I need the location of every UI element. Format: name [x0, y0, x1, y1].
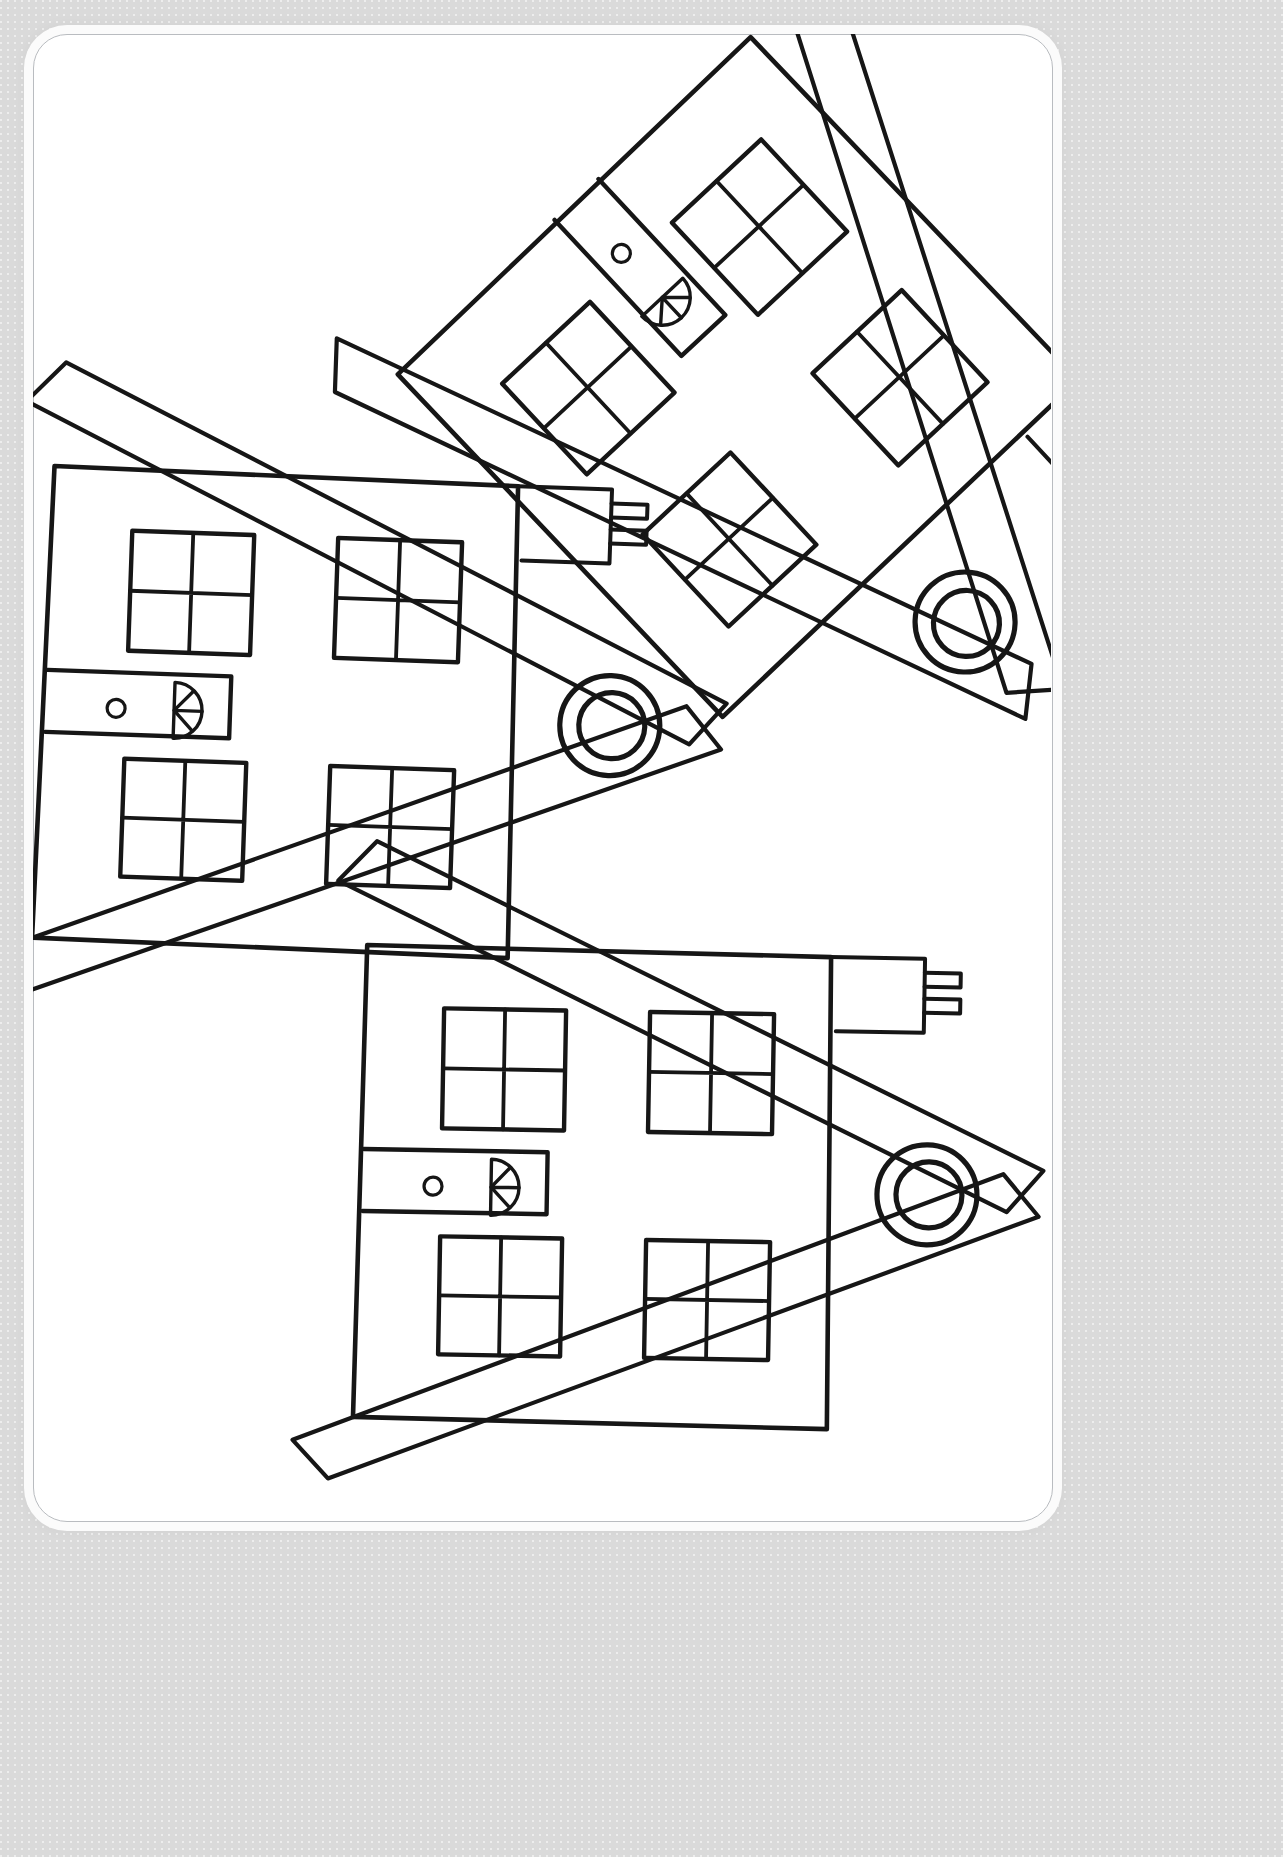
house-2-attic-vent	[558, 674, 661, 777]
house-1-door-fan-light	[642, 278, 702, 337]
house-1-roof	[309, 34, 1051, 914]
house-2-window-top-right	[128, 531, 254, 655]
house-1-door	[553, 179, 725, 357]
house-2-roof	[33, 360, 738, 1024]
house-2	[33, 360, 738, 1024]
house-1-window-top-left	[502, 302, 674, 475]
house-2-chimney	[516, 486, 649, 564]
house-3-window-top-right	[442, 1008, 566, 1130]
house-3-attic-vent	[876, 1144, 978, 1246]
house-2-door-fan-light	[173, 682, 203, 739]
house-1-chimney	[1023, 380, 1051, 527]
house-3-roof	[292, 840, 1049, 1491]
house-1	[309, 34, 1051, 914]
house-2-window-top-left	[120, 759, 246, 881]
house-3-door-fan-light	[491, 1159, 520, 1215]
house-3	[292, 840, 1049, 1491]
house-2-door	[45, 670, 231, 740]
house-1-window-bottom-left	[643, 452, 817, 626]
house-3-door	[363, 1149, 548, 1216]
house-3-window-top-left	[438, 1236, 562, 1356]
houses-line-drawing	[33, 34, 1051, 1520]
house-1-attic-vent	[894, 551, 1035, 692]
house-3-chimney	[830, 957, 961, 1033]
